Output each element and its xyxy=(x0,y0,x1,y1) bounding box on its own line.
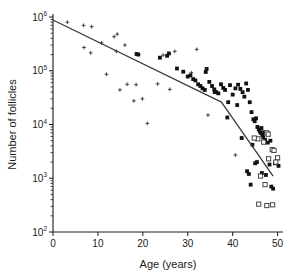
y-tick-label: 106 xyxy=(32,10,47,23)
data-point-filled-square xyxy=(250,110,254,114)
data-point-cross xyxy=(118,88,122,92)
x-axis-title: Age (years) xyxy=(140,258,197,270)
data-point-open-square xyxy=(262,140,266,144)
data-point-filled-square xyxy=(175,67,179,71)
data-point-filled-square xyxy=(189,73,193,77)
data-point-cross xyxy=(134,83,138,87)
data-point-cross xyxy=(145,121,149,125)
data-point-filled-square xyxy=(271,187,275,191)
chart-container: 01020304050102103104105106Age (years)Num… xyxy=(0,0,295,280)
data-point-filled-square xyxy=(269,139,273,143)
data-point-cross xyxy=(65,20,69,24)
data-point-filled-square xyxy=(236,83,240,87)
data-point-open-square xyxy=(272,148,276,152)
data-point-filled-square xyxy=(249,183,253,187)
data-point-open-square xyxy=(266,132,270,136)
data-point-open-square xyxy=(271,203,275,207)
y-tick-label: 105 xyxy=(32,64,47,77)
x-tick-label: 20 xyxy=(137,238,149,249)
data-point-cross xyxy=(233,153,237,157)
x-tick-label: 0 xyxy=(50,238,56,249)
data-point-filled-square xyxy=(235,103,239,107)
data-point-open-square xyxy=(276,156,280,160)
data-point-filled-square xyxy=(260,126,264,130)
data-point-open-square xyxy=(257,202,261,206)
axis-lines xyxy=(53,14,283,232)
y-tick-label: 104 xyxy=(32,118,47,131)
y-axis-title: Number of follicles xyxy=(6,79,18,170)
data-point-filled-square xyxy=(181,70,185,74)
data-point-filled-square xyxy=(248,100,252,104)
data-point-filled-square xyxy=(226,100,230,104)
data-point-filled-square xyxy=(136,53,140,57)
data-point-open-square xyxy=(263,183,267,187)
data-point-open-square xyxy=(274,160,278,164)
data-point-filled-square xyxy=(204,70,208,74)
data-point-filled-square xyxy=(203,88,207,92)
data-point-cross xyxy=(195,47,199,51)
x-tick-label: 30 xyxy=(182,238,194,249)
data-point-cross xyxy=(168,87,172,91)
data-point-filled-square xyxy=(241,90,245,94)
y-tick-label: 102 xyxy=(32,225,47,238)
data-point-filled-square xyxy=(223,88,227,92)
data-point-cross xyxy=(105,72,109,76)
data-point-filled-square xyxy=(213,90,217,94)
data-point-filled-square xyxy=(158,56,162,60)
data-point-filled-square xyxy=(264,173,268,177)
data-point-open-square xyxy=(258,174,262,178)
data-point-cross xyxy=(125,82,129,86)
x-tick-label: 50 xyxy=(272,238,284,249)
x-tick-label: 10 xyxy=(92,238,104,249)
data-point-filled-square xyxy=(216,91,220,95)
data-point-filled-square xyxy=(246,88,250,92)
x-tick-label: 40 xyxy=(227,238,239,249)
data-point-open-square xyxy=(252,136,256,140)
data-point-cross xyxy=(156,82,160,86)
data-point-cross xyxy=(90,25,94,29)
data-point-filled-square xyxy=(255,160,259,164)
follicle-age-scatter-chart: 01020304050102103104105106Age (years)Num… xyxy=(0,0,295,280)
data-point-filled-square xyxy=(254,116,258,120)
data-point-filled-square xyxy=(233,86,237,90)
data-point-filled-square xyxy=(231,93,235,97)
data-point-filled-square xyxy=(225,116,229,120)
data-point-filled-square xyxy=(167,52,171,56)
data-point-filled-square xyxy=(219,82,223,86)
data-point-filled-square xyxy=(210,84,214,88)
data-point-filled-square xyxy=(194,79,198,83)
data-point-open-square xyxy=(265,203,269,207)
data-point-filled-square xyxy=(207,80,211,84)
data-point-cross xyxy=(140,97,144,101)
data-point-open-square xyxy=(267,157,271,161)
data-point-cross xyxy=(132,99,136,103)
data-point-cross xyxy=(115,32,119,36)
data-point-filled-square xyxy=(268,163,272,167)
data-point-filled-square xyxy=(238,87,242,91)
data-point-filled-square xyxy=(228,83,232,87)
data-point-filled-square xyxy=(242,95,246,99)
data-point-filled-square xyxy=(240,136,244,140)
fitted-regression-line xyxy=(53,20,273,176)
data-point-cross xyxy=(123,43,127,47)
data-point-cross xyxy=(89,51,93,55)
y-tick-label: 103 xyxy=(32,171,47,184)
data-point-filled-square xyxy=(247,172,251,176)
data-point-cross xyxy=(173,49,177,53)
data-point-cross xyxy=(82,46,86,50)
data-point-cross xyxy=(206,113,210,117)
data-point-cross xyxy=(82,23,86,27)
data-point-cross xyxy=(112,35,116,39)
data-point-filled-square xyxy=(244,82,248,86)
